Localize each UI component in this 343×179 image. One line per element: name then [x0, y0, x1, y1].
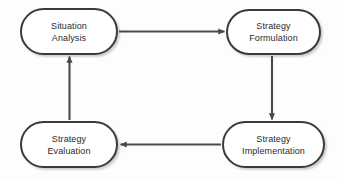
node-label-line1: Strategy: [52, 133, 86, 145]
node-situation-analysis: Situation Analysis: [20, 8, 118, 55]
node-label-line2: Formulation: [249, 32, 298, 44]
node-strategy-formulation: Strategy Formulation: [226, 9, 321, 55]
node-label-line2: Analysis: [52, 32, 86, 44]
strategic-management-cycle-diagram: Situation Analysis Strategy Formulation …: [0, 0, 343, 179]
node-label-line1: Situation: [51, 20, 87, 32]
node-label-line1: Strategy: [256, 20, 290, 32]
node-label-line2: Evaluation: [47, 145, 90, 157]
node-label-line1: Strategy: [256, 133, 290, 145]
node-label-line2: Implementation: [242, 145, 305, 157]
node-strategy-implementation: Strategy Implementation: [222, 121, 325, 168]
node-strategy-evaluation: Strategy Evaluation: [20, 121, 118, 168]
